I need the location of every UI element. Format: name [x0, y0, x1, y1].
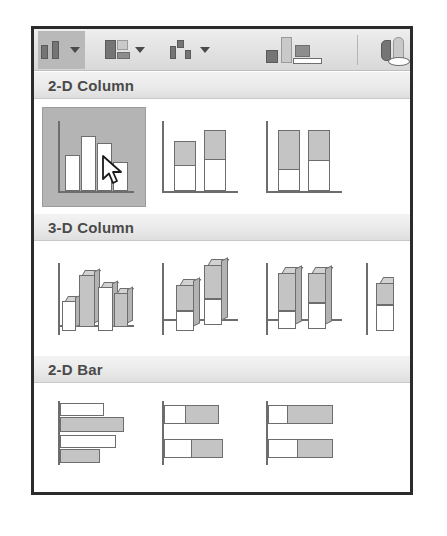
thumb-row-3d-column — [34, 241, 410, 355]
thumb-row-2d-bar — [34, 383, 410, 475]
stacked-column-glyph — [160, 121, 236, 193]
bar-chart-group-icon[interactable] — [264, 31, 330, 69]
chart-option-3d-stacked-column[interactable] — [146, 249, 250, 349]
section-header-2d-column: 2-D Column — [34, 71, 410, 99]
chevron-down-icon[interactable] — [200, 47, 210, 53]
chart-option-3d-100-stacked-column[interactable] — [250, 249, 354, 349]
section-title: 2-D Column — [48, 77, 134, 94]
chart-option-100-stacked-column[interactable] — [250, 107, 354, 207]
column-chart-icon — [38, 37, 68, 63]
chart-option-clustered-column[interactable] — [42, 107, 146, 207]
section-title: 3-D Column — [48, 219, 134, 236]
chart-option-stacked-column[interactable] — [146, 107, 250, 207]
chart-type-list: 2-D Column — [34, 71, 410, 492]
clustered-bar-glyph — [56, 401, 132, 465]
chevron-down-icon[interactable] — [135, 47, 145, 53]
100-stacked-column-glyph — [264, 121, 340, 193]
line-chart-icon — [168, 37, 198, 63]
stacked-bar-glyph — [160, 401, 236, 465]
section-title: 2-D Bar — [48, 361, 103, 378]
chevron-down-icon[interactable] — [70, 47, 80, 53]
chart-option-3d-clustered-column[interactable] — [42, 249, 146, 349]
thumb-row-2d-column — [34, 99, 410, 213]
pie-chart-button[interactable] — [379, 31, 413, 69]
chart-ribbon-toolbar — [34, 29, 410, 71]
bar-chart-button[interactable] — [103, 31, 150, 69]
chart-option-3d-column[interactable] — [354, 249, 394, 349]
column-chart-button[interactable] — [38, 31, 85, 69]
3d-clustered-column-glyph — [56, 263, 132, 335]
line-chart-button[interactable] — [168, 31, 215, 69]
chart-option-100-stacked-bar[interactable] — [250, 391, 354, 469]
section-header-2d-bar: 2-D Bar — [34, 355, 410, 383]
toolbar-separator — [357, 35, 358, 65]
bar-chart-group-glyph — [264, 37, 330, 63]
chart-option-stacked-bar[interactable] — [146, 391, 250, 469]
chart-option-clustered-bar[interactable] — [42, 391, 146, 469]
100-stacked-bar-glyph — [264, 401, 340, 465]
3d-column-glyph — [364, 263, 394, 335]
clustered-column-glyph — [56, 121, 132, 193]
chart-type-gallery-popup: 2-D Column — [31, 26, 413, 495]
3d-stacked-column-glyph — [160, 263, 236, 335]
screenshot-root: 2-D Column — [0, 0, 447, 536]
pie-chart-icon — [379, 37, 413, 63]
bar-chart-icon — [103, 37, 133, 63]
3d-100-stacked-column-glyph — [264, 263, 340, 335]
section-header-3d-column: 3-D Column — [34, 213, 410, 241]
